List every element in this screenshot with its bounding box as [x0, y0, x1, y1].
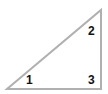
angle-label-1: 1 — [26, 73, 33, 87]
angle-label-2: 2 — [88, 24, 95, 38]
triangle-outline — [7, 10, 101, 89]
triangle-diagram: 1 2 3 — [0, 0, 108, 94]
angle-label-3: 3 — [88, 73, 95, 87]
